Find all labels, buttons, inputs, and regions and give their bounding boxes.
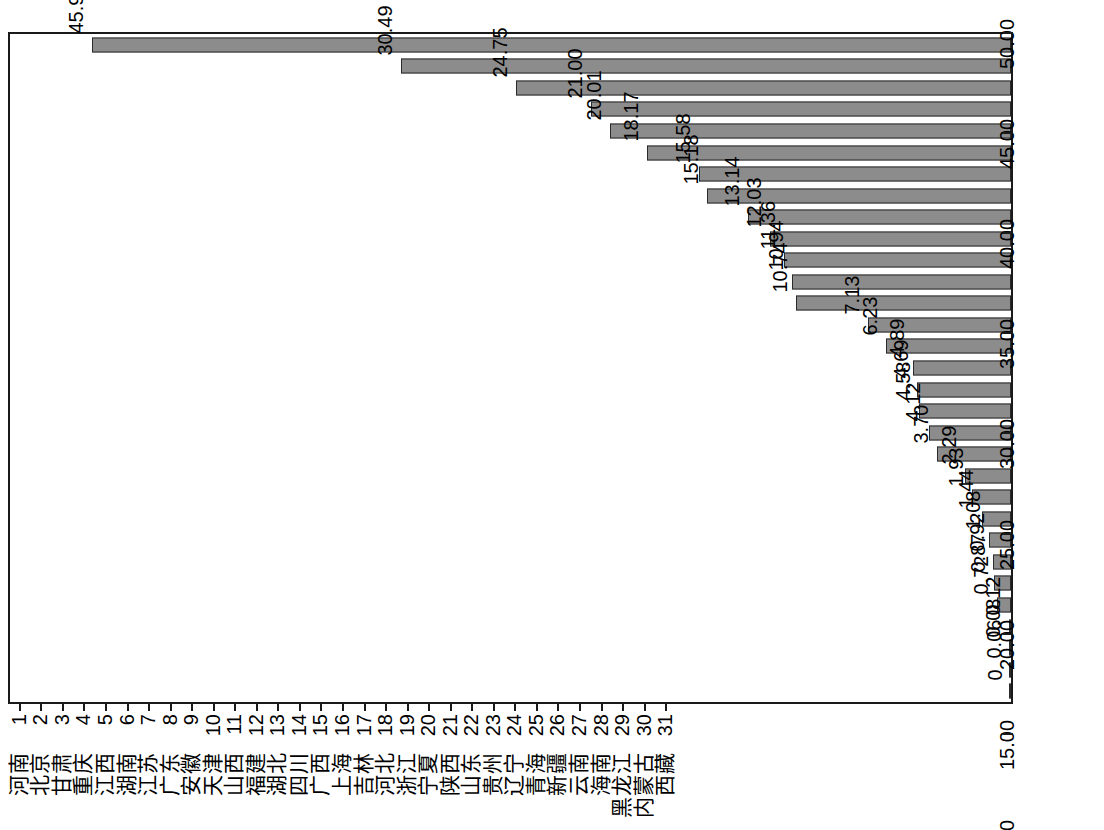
- category-tick: 25青海: [525, 704, 547, 830]
- category-tick-mark: [364, 704, 366, 711]
- bar: [792, 274, 1011, 289]
- value-axis: 05.0010.0015.0020.0025.0030.0035.0040.00…: [1013, 32, 1104, 704]
- category-name-label: 重庆: [73, 752, 94, 796]
- category-tick-mark: [428, 704, 430, 711]
- category-index-label: 16: [332, 714, 352, 736]
- bar-row: 0.87: [10, 573, 1011, 595]
- value-axis-tick: [1003, 32, 1013, 34]
- category-tick-mark: [256, 704, 258, 711]
- category-name-label: 江西: [94, 752, 115, 796]
- bar-row: 24.75: [10, 77, 1011, 99]
- bar-row: 15.58: [10, 163, 1011, 185]
- bar-row: 0.92: [10, 551, 1011, 573]
- category-tick-mark: [320, 704, 322, 711]
- category-index-label: 6: [117, 714, 137, 725]
- bar: [784, 253, 1011, 268]
- bar-row: 13.14: [10, 206, 1011, 228]
- value-axis-tick-label: 45.00: [997, 119, 1017, 169]
- value-axis-tick-label: 35.00: [997, 319, 1017, 369]
- bars-layer: 45.9230.4924.7521.0020.0118.1715.5815.18…: [10, 34, 1011, 702]
- category-tick: 13湖北: [267, 704, 289, 830]
- bar: [917, 382, 1011, 397]
- category-tick: 30内蒙古: [633, 704, 655, 830]
- category-name-label: 浙江: [396, 752, 417, 796]
- category-index-label: 8: [160, 714, 180, 725]
- category-tick-mark: [514, 704, 516, 711]
- category-index-label: 10: [203, 714, 223, 736]
- category-tick-mark: [493, 704, 495, 711]
- category-name-label: 贵州: [482, 752, 503, 796]
- category-tick: 11山西: [223, 704, 245, 830]
- category-name-label: 北京: [30, 752, 51, 796]
- bar-row: 0: [10, 680, 1011, 702]
- category-tick-mark: [277, 704, 279, 711]
- category-tick: 2北京: [30, 704, 52, 830]
- category-name-label: 内蒙古: [633, 752, 654, 818]
- category-index-label: 18: [375, 714, 395, 736]
- category-tick: 15广西: [310, 704, 332, 830]
- category-tick-mark: [40, 704, 42, 711]
- value-axis-tick: [1003, 533, 1013, 535]
- category-name-label: 云南: [569, 752, 590, 796]
- bar-row: 1.44: [10, 508, 1011, 530]
- category-axis: 1河南2北京3甘肃4重庆5江西6湖南7江苏8广东9安徽10天津11山西12福建1…: [8, 704, 1013, 830]
- value-axis-tick: [1003, 633, 1013, 635]
- category-name-label: 江苏: [138, 752, 159, 796]
- bar-row: 1.08: [10, 530, 1011, 552]
- category-name-label: 山东: [461, 752, 482, 796]
- bar-row: 15.18: [10, 185, 1011, 207]
- category-tick: 6湖南: [116, 704, 138, 830]
- bar-chart: 45.9230.4924.7521.0020.0118.1715.5815.18…: [0, 0, 1104, 830]
- category-index-label: 3: [52, 714, 72, 725]
- category-tick: 1河南: [8, 704, 30, 830]
- category-tick: 19浙江: [396, 704, 418, 830]
- category-tick-mark: [579, 704, 581, 711]
- category-tick-mark: [62, 704, 64, 711]
- category-tick: 10天津: [202, 704, 224, 830]
- category-tick-mark: [19, 704, 21, 711]
- category-tick-mark: [105, 704, 107, 711]
- category-name-label: 青海: [525, 752, 546, 796]
- category-index-label: 7: [138, 714, 158, 725]
- category-tick: 5江西: [94, 704, 116, 830]
- bar: [796, 296, 1011, 311]
- bar-row: 11.36: [10, 249, 1011, 271]
- category-tick: 9安徽: [180, 704, 202, 830]
- category-index-label: 23: [483, 714, 503, 736]
- category-tick: 28海南: [590, 704, 612, 830]
- category-name-label: 福建: [245, 752, 266, 796]
- value-axis-tick-label: 20.00: [997, 620, 1017, 670]
- category-tick: 14四川: [288, 704, 310, 830]
- category-index-label: 25: [526, 714, 546, 736]
- category-index-label: 28: [591, 714, 611, 736]
- value-axis-tick: [1003, 232, 1013, 234]
- category-index-label: 1: [9, 714, 29, 725]
- category-tick: 8广东: [159, 704, 181, 830]
- category-index-label: 24: [504, 714, 524, 736]
- category-index-label: 14: [289, 714, 309, 736]
- category-tick-mark: [644, 704, 646, 711]
- category-name-label: 上海: [331, 752, 352, 796]
- category-index-label: 12: [246, 714, 266, 736]
- category-tick-mark: [622, 704, 624, 711]
- bar: [1009, 684, 1011, 699]
- category-tick: 4重庆: [73, 704, 95, 830]
- category-name-label: 四川: [288, 752, 309, 796]
- category-name-label: 天津: [202, 752, 223, 796]
- category-name-label: 辽宁: [504, 752, 525, 796]
- category-name-label: 西藏: [655, 752, 676, 796]
- bar-row: 18.17: [10, 142, 1011, 164]
- category-tick-mark: [601, 704, 603, 711]
- bar: [591, 102, 1011, 117]
- category-name-label: 河北: [375, 752, 396, 796]
- category-tick: 18河北: [374, 704, 396, 830]
- value-axis-tick-label: 50.00: [997, 19, 1017, 69]
- category-index-label: 5: [95, 714, 115, 725]
- bar-row: 6.23: [10, 336, 1011, 358]
- bar-row: 0.06: [10, 659, 1011, 681]
- category-tick-mark: [665, 704, 667, 711]
- category-index-label: 27: [569, 714, 589, 736]
- category-tick-mark: [127, 704, 129, 711]
- bar-row: 20.01: [10, 120, 1011, 142]
- category-name-label: 甘肃: [51, 752, 72, 796]
